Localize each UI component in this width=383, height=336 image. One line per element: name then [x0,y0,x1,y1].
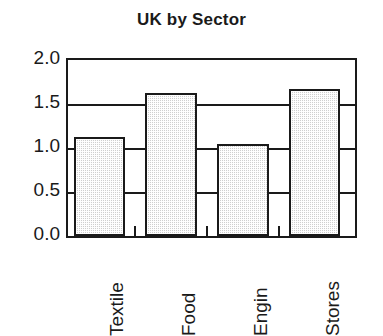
y-axis-tick-label: 0.5 [4,179,60,201]
y-axis-tick-labels: 0.00.51.01.52.0 [0,58,60,238]
y-axis-tick-label: 2.0 [4,47,60,69]
y-axis-tick-label: 0.0 [4,223,60,245]
bar [145,93,197,236]
x-axis-minor-tick [134,226,136,236]
bar [289,89,341,236]
x-axis-tick-label: Textile [106,282,128,336]
x-axis-minor-tick [206,226,208,236]
bar-chart: UK by Sector 0.00.51.01.52.0 TextileFood… [0,0,383,336]
bar [217,144,269,236]
x-axis-tick-label: Engin [250,287,272,336]
y-axis-tick-label: 1.5 [4,91,60,113]
x-axis-tick-label: Food [178,293,200,336]
y-axis-tick-label: 1.0 [4,135,60,157]
chart-title: UK by Sector [0,10,383,30]
x-axis-minor-tick [278,226,280,236]
x-axis-tick-label: Stores [322,281,344,336]
x-axis-tick-labels: TextileFoodEnginStores [66,244,357,336]
bar [74,137,126,236]
plot-area [66,58,357,238]
